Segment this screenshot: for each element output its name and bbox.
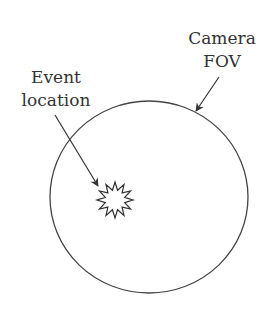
event-starburst-icon xyxy=(97,182,133,218)
camera-fov-label-line2: FOV xyxy=(180,50,264,73)
camera-fov-label: Camera FOV xyxy=(180,27,264,73)
camera-fov-circle xyxy=(50,101,248,293)
camera-fov-arrow xyxy=(196,77,219,111)
event-location-label: Event location xyxy=(14,66,98,112)
event-location-label-line2: location xyxy=(14,89,98,112)
event-location-label-line1: Event xyxy=(14,66,98,89)
camera-fov-label-line1: Camera xyxy=(180,27,264,50)
event-location-arrow xyxy=(55,115,98,186)
